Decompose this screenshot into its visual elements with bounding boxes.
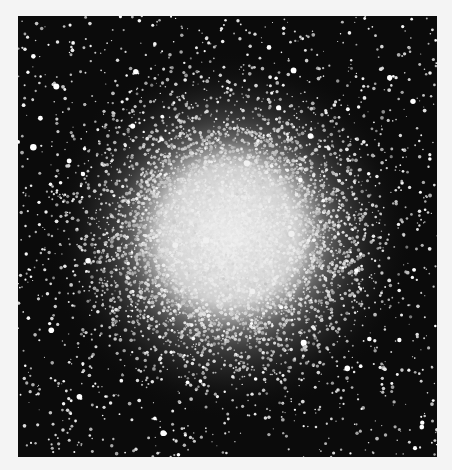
- star-cluster-photo: [18, 16, 437, 457]
- starfield-canvas: [18, 16, 437, 457]
